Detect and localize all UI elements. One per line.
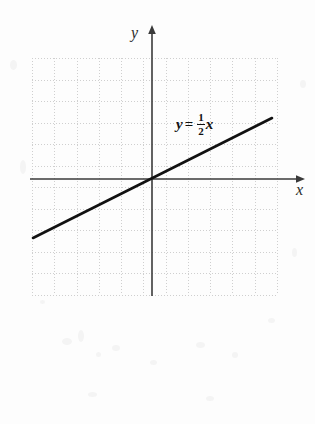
equation-fraction: 1 2 [197, 112, 205, 137]
equation-operator: = [185, 117, 194, 132]
equation-annotation: y = 1 2 x [176, 112, 213, 137]
x-axis-label: x [296, 182, 303, 198]
fraction-numerator: 1 [197, 112, 205, 124]
y-axis-arrowhead [148, 25, 156, 34]
graph-axes-and-line [0, 0, 315, 424]
equation-variable: x [206, 117, 214, 132]
graph-figure: y x y = 1 2 x [0, 0, 315, 424]
equation-lhs: y [176, 117, 183, 132]
fraction-denominator: 2 [197, 124, 205, 137]
y-axis-label: y [131, 25, 138, 41]
